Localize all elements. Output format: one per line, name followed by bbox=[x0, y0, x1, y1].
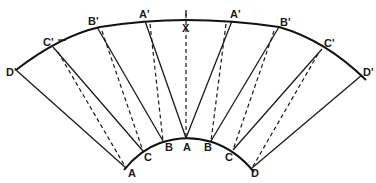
solid-line-a-right bbox=[186, 21, 232, 138]
label-a-prime-left: A' bbox=[139, 8, 150, 20]
dashed-line-c-right bbox=[252, 54, 318, 168]
dashed-line-c-left bbox=[58, 52, 126, 168]
label-a-prime-right: A' bbox=[230, 8, 241, 20]
label-a-inner-center: A bbox=[183, 141, 191, 153]
label-c-prime-left: C' bbox=[43, 36, 54, 48]
solid-line-c-left bbox=[53, 47, 143, 151]
sector-diagram: D' C' B' A' X A' B' C' D' A C B A B C D bbox=[0, 0, 376, 183]
label-b-prime-right: B' bbox=[280, 16, 291, 28]
label-b-inner-right: B bbox=[204, 141, 212, 153]
solid-line-d-left bbox=[16, 70, 126, 168]
label-c-inner-right: C bbox=[225, 151, 233, 163]
solid-line-b-right bbox=[211, 27, 279, 141]
label-c-prime-right: C' bbox=[324, 37, 335, 49]
label-d-prime-left: D' bbox=[6, 66, 17, 78]
label-x: X bbox=[182, 22, 190, 34]
dashed-line-b-left bbox=[102, 31, 143, 151]
diagram-canvas: D' C' B' A' X A' B' C' D' A C B A B C D bbox=[0, 0, 376, 183]
solid-line-c-right bbox=[233, 49, 322, 150]
label-b-inner-left: B bbox=[165, 141, 173, 153]
solid-line-d-right bbox=[252, 75, 362, 168]
dashed-line-a-left bbox=[150, 24, 163, 141]
dashed-line-a-right bbox=[211, 24, 226, 141]
label-b-prime-left: B' bbox=[88, 15, 99, 27]
label-d-inner-right: D bbox=[251, 167, 259, 179]
dashed-line-b-right bbox=[233, 31, 274, 150]
label-d-prime-right: D' bbox=[363, 66, 374, 78]
label-a-inner-left: A bbox=[128, 167, 136, 179]
label-c-inner-left: C bbox=[144, 151, 152, 163]
